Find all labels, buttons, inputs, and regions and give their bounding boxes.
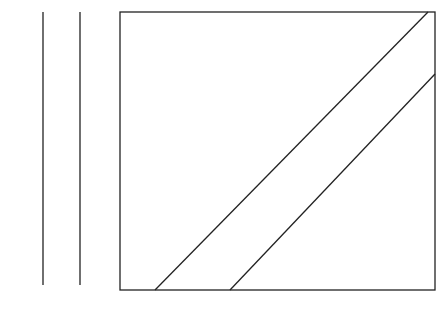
ge-capacitance-axis: [19, 12, 43, 285]
hatch-boundary-line: [155, 12, 428, 290]
si-capacitance-axis: [60, 12, 80, 285]
nomogram-chart: [0, 0, 448, 313]
